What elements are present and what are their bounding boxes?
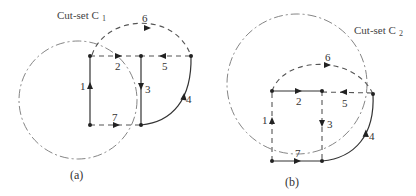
edge-3-arrow-icon — [319, 120, 325, 127]
cutset-c1-circle — [19, 41, 137, 159]
figure-b: Cut-set C2 6 2 5 1 3 7 4 — [227, 14, 403, 189]
node — [88, 123, 92, 127]
figure-a: Cut-set C1 6 2 5 1 3 7 4 — [19, 9, 193, 182]
edge-6-arrow-icon — [144, 25, 151, 31]
node — [88, 54, 92, 58]
cutset-c2-label: Cut-set C2 — [354, 24, 403, 38]
node — [320, 159, 324, 163]
edge-6 — [92, 23, 191, 56]
node — [139, 54, 143, 58]
edge-3-label: 3 — [145, 83, 151, 95]
edge-3-label: 3 — [327, 118, 333, 130]
node — [270, 159, 274, 163]
edge-3-arrow-icon — [138, 83, 144, 90]
node — [270, 89, 274, 93]
cutset-c1-label: Cut-set C1 — [57, 9, 106, 23]
edge-1-arrow-icon — [87, 82, 93, 89]
edge-4-label: 4 — [186, 93, 192, 105]
edge-5-arrow-icon — [159, 53, 166, 59]
figure-b-caption: (b) — [285, 175, 299, 189]
edge-7-label: 7 — [295, 147, 301, 159]
edge-1-arrow-icon — [269, 117, 275, 124]
node — [320, 89, 324, 93]
edge-5-label: 5 — [162, 60, 168, 72]
edge-1-label: 1 — [80, 80, 86, 92]
edge-2-label: 2 — [115, 60, 121, 72]
node — [371, 92, 375, 96]
edge-1-label: 1 — [262, 114, 268, 126]
edge-5-arrow-icon — [340, 89, 347, 95]
edge-5 — [322, 92, 373, 93]
cutset-diagram: Cut-set C1 6 2 5 1 3 7 4 — [0, 0, 416, 196]
node — [139, 123, 143, 127]
edge-2-label: 2 — [296, 95, 302, 107]
edge-2-arrow-icon — [115, 53, 122, 59]
cutset-c2-circle — [227, 14, 367, 154]
edge-2-arrow-icon — [295, 88, 302, 94]
figure-a-caption: (a) — [70, 168, 83, 182]
node — [189, 54, 193, 58]
edge-6-label: 6 — [325, 51, 331, 63]
edge-7-label: 7 — [112, 111, 118, 123]
edge-4-label: 4 — [369, 130, 375, 142]
edge-5-label: 5 — [342, 97, 348, 109]
edge-6-label: 6 — [142, 12, 148, 24]
